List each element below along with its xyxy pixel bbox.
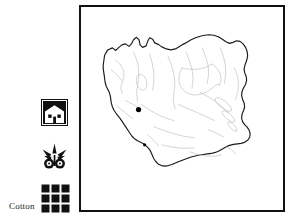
legend-icon-column	[41, 99, 71, 217]
cotton-caption: Cotton	[9, 201, 35, 212]
iran-outline-map	[81, 7, 283, 210]
site-marker-primary	[136, 107, 141, 112]
weave-grid-icon	[41, 184, 71, 214]
cotton-boll-icon	[41, 142, 68, 172]
house-icon	[41, 99, 68, 126]
map-panel	[79, 5, 285, 212]
site-marker-secondary	[143, 143, 146, 146]
